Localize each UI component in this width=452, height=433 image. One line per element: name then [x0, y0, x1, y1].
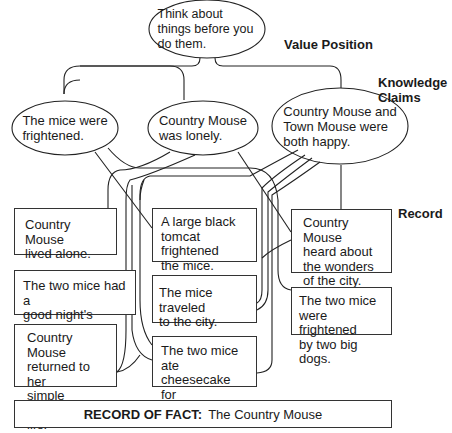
- record-box-tomcat: A large black tomcat frightened the mice…: [152, 208, 257, 262]
- record-line: to the city.: [159, 315, 248, 330]
- record-box-lived-alone: Country Mouse lived alone.: [14, 208, 117, 255]
- record-line: were frightened: [299, 309, 383, 338]
- claim-ellipse-happy: Country Mouse and Town Mouse were both h…: [272, 88, 408, 164]
- record-line: Country Mouse: [27, 331, 108, 360]
- record-line: The two mice: [299, 294, 383, 309]
- claim-text-line: Country Mouse and: [283, 104, 396, 119]
- record-box-cheesecake: The two mice ate cheesecake for dessert.: [152, 336, 257, 387]
- value-position-label: Value Position: [284, 37, 373, 52]
- record-line: the mice.: [161, 259, 248, 274]
- record-of-fact-title: The Country Mouse: [208, 407, 322, 422]
- claim-ellipse-frightened: The mice were frightened.: [12, 101, 118, 155]
- claim-text-line: was lonely.: [159, 128, 247, 143]
- record-line: cheesecake for: [161, 373, 248, 402]
- record-box-heard-wonders: Country Mouse heard about the wonders of…: [291, 209, 392, 273]
- record-line: The two mice ate: [161, 344, 248, 373]
- record-line: The two mice had a: [23, 279, 127, 308]
- record-box-dogs: The two mice were frightened by two big …: [291, 287, 392, 335]
- value-position-ellipse: Think about things before you do them.: [150, 0, 265, 58]
- record-line: Country Mouse: [25, 218, 108, 247]
- record-box-returned: Country Mouse returned to her simple cou…: [14, 324, 117, 387]
- claim-ellipse-lonely: Country Mouse was lonely.: [148, 101, 258, 155]
- record-line: A large black: [161, 215, 248, 230]
- record-line: Country Mouse: [303, 216, 383, 245]
- record-line: by two big dogs.: [299, 338, 383, 367]
- claim-text-line: Country Mouse: [159, 113, 247, 128]
- record-line: the wonders: [303, 260, 383, 275]
- record-of-fact-box: RECORD OF FACT: The Country Mouse: [14, 400, 392, 428]
- claim-text-line: Town Mouse were: [283, 119, 396, 134]
- value-position-text: Think about things before you do them.: [158, 7, 258, 52]
- record-line: tomcat frightened: [161, 230, 248, 259]
- record-of-fact-label: RECORD OF FACT:: [84, 407, 202, 422]
- record-line: returned to her: [27, 360, 108, 389]
- claim-text-line: both happy.: [283, 134, 396, 149]
- record-line: The mice traveled: [159, 286, 248, 315]
- record-box-good-sleep: The two mice had a good night's sleep.: [14, 270, 136, 315]
- record-label: Record: [398, 206, 443, 221]
- claim-text-line: The mice were: [22, 113, 107, 128]
- record-line: heard about: [303, 245, 383, 260]
- record-box-traveled: The mice traveled to the city.: [152, 275, 257, 323]
- claim-text-line: frightened.: [22, 128, 107, 143]
- record-line: lived alone.: [25, 247, 108, 262]
